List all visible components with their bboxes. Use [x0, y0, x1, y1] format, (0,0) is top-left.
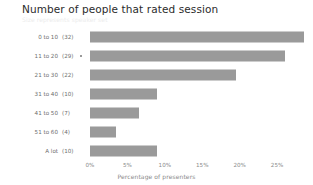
bar [90, 32, 304, 43]
category-count: (10) [62, 91, 80, 97]
x-tick-label: 25% [271, 162, 283, 168]
category-label: 31 to 40 [24, 91, 58, 97]
bar [90, 70, 236, 81]
x-tick-label: 0% [86, 162, 95, 168]
bar [90, 51, 285, 62]
bar [90, 88, 157, 99]
category-label: 51 to 60 [24, 129, 58, 135]
bar-row: 31 to 40(10) [0, 85, 313, 104]
category-label: 41 to 50 [24, 110, 58, 116]
category-count: (29) [62, 53, 80, 59]
x-tick-label: 5% [123, 162, 132, 168]
bar [90, 107, 139, 118]
bar-row: 41 to 50(7) [0, 103, 313, 122]
x-tick-label: 20% [233, 162, 245, 168]
category-label: 11 to 20 [24, 53, 58, 59]
x-axis-title: Percentage of presenters [0, 173, 313, 180]
bar-row: A lot(10) [0, 141, 313, 160]
plot-area: 0 to 10(32)11 to 20(29)21 to 30(22)31 to… [0, 28, 313, 160]
x-tick-label: 10% [159, 162, 171, 168]
category-count: (22) [62, 72, 80, 78]
x-tick-label: 15% [196, 162, 208, 168]
x-axis: 0%5%10%15%20%25% [0, 162, 313, 172]
bar-row: 0 to 10(32) [0, 28, 313, 47]
category-label: A lot [24, 148, 58, 154]
row-marker-icon [80, 55, 82, 57]
bar [90, 145, 157, 156]
chart-container: Number of people that rated session Size… [0, 0, 313, 185]
bar [90, 126, 116, 137]
category-count: (7) [62, 110, 80, 116]
bar-row: 21 to 30(22) [0, 66, 313, 85]
bar-row: 51 to 60(4) [0, 122, 313, 141]
chart-title: Number of people that rated session [22, 3, 218, 15]
bar-row: 11 to 20(29) [0, 47, 313, 66]
category-count: (4) [62, 129, 80, 135]
category-label: 0 to 10 [24, 34, 58, 40]
chart-subtitle: Size represents speaker set [22, 16, 108, 23]
category-count: (10) [62, 148, 80, 154]
category-count: (32) [62, 34, 80, 40]
category-label: 21 to 30 [24, 72, 58, 78]
